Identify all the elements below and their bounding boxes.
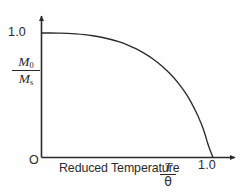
x-axis-ratio-denominator: θ bbox=[160, 176, 176, 189]
magnetization-curve bbox=[42, 33, 214, 158]
x-axis-ratio-label: T θ bbox=[160, 160, 176, 189]
y-axis-numerator-symbol: M bbox=[18, 54, 29, 69]
y-axis-numerator-subscript: 0 bbox=[30, 61, 34, 70]
y-axis-denominator-symbol: M bbox=[19, 71, 30, 86]
x-axis-ratio-numerator: T bbox=[160, 160, 176, 173]
y-axis-title: M0 Ms bbox=[12, 55, 40, 85]
figure-container: 1.0 M0 Ms O Reduced Temperature T θ 1.0 bbox=[0, 0, 251, 192]
x-axis-tick-label-1: 1.0 bbox=[198, 159, 216, 172]
y-axis-tick-label-1: 1.0 bbox=[8, 26, 26, 39]
y-axis-denominator: Ms bbox=[12, 72, 40, 86]
y-axis-numerator: M0 bbox=[12, 55, 40, 69]
y-axis-denominator-subscript: s bbox=[30, 78, 33, 87]
origin-label: O bbox=[29, 154, 39, 167]
